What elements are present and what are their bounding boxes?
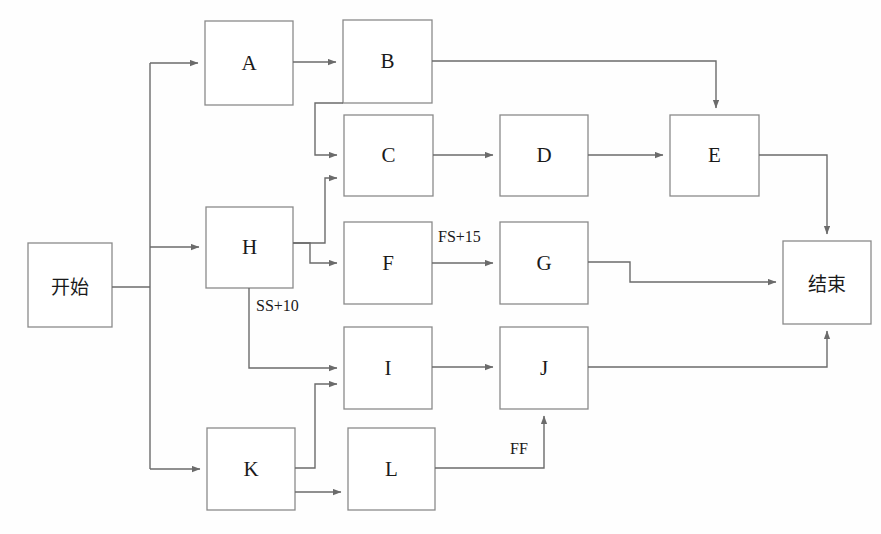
edge-K-to-I <box>295 384 337 468</box>
node-box-K[interactable] <box>207 428 295 510</box>
node-box-I[interactable] <box>344 327 432 409</box>
network-diagram-graphic <box>0 0 881 534</box>
node-box-G[interactable] <box>500 222 588 304</box>
node-box-F[interactable] <box>344 222 432 304</box>
edge-H-to-F <box>293 243 337 263</box>
node-box-H[interactable] <box>206 207 293 288</box>
edge-E-to-end <box>759 155 827 234</box>
node-box-start[interactable] <box>28 243 112 327</box>
edge-B-to-C <box>315 103 343 155</box>
node-box-L[interactable] <box>348 428 435 510</box>
node-box-C[interactable] <box>344 115 433 196</box>
edge-H-to-I <box>249 288 337 368</box>
edge-H-to-C <box>293 178 337 243</box>
node-box-J[interactable] <box>500 327 588 409</box>
node-box-group <box>28 20 871 510</box>
node-box-E[interactable] <box>670 115 759 196</box>
node-box-B[interactable] <box>343 20 432 103</box>
edge-L-to-J <box>435 416 544 468</box>
edge-B-to-E <box>432 61 716 108</box>
edge-J-to-end <box>588 331 827 367</box>
diagram-canvas: 开始 A B C D E H F G 结束 I J K L FS+15 SS+1… <box>0 0 881 534</box>
node-box-D[interactable] <box>500 115 588 196</box>
edge-G-to-end <box>588 262 776 282</box>
node-box-end[interactable] <box>783 241 871 324</box>
node-box-A[interactable] <box>205 21 293 105</box>
